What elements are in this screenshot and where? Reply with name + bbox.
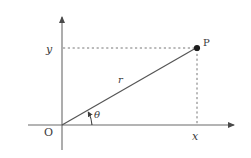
polar-coordinate-diagram: y x O r θ P bbox=[0, 0, 251, 158]
radius-line bbox=[62, 48, 196, 125]
angle-arc bbox=[89, 113, 93, 126]
y-axis-label: y bbox=[46, 44, 52, 55]
x-axis-label: x bbox=[192, 131, 198, 142]
origin-label: O bbox=[44, 127, 53, 138]
point-p-label: P bbox=[203, 38, 210, 48]
radius-label: r bbox=[118, 75, 123, 85]
point-p-marker bbox=[194, 45, 200, 51]
diagram-canvas bbox=[0, 0, 251, 158]
angle-label: θ bbox=[94, 110, 100, 120]
